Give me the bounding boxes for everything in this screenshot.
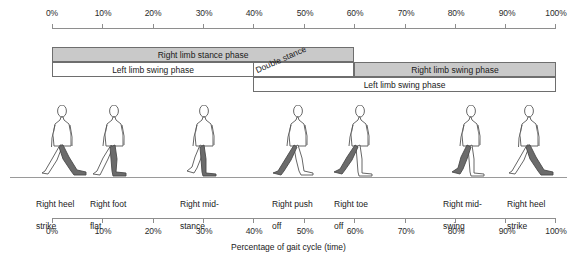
top-axis-tick-20 xyxy=(153,24,154,29)
event-label-line-1: Right heel xyxy=(507,199,545,210)
bar-double-stance: Double stance xyxy=(253,62,354,77)
bottom-axis-tick-50 xyxy=(304,218,305,223)
bottom-axis-tick-30 xyxy=(203,218,204,223)
bottom-axis-tick-90 xyxy=(505,218,506,223)
top-tick-label-60: 60% xyxy=(338,8,372,18)
top-axis-tick-10 xyxy=(102,24,103,29)
walker-figure-right-mid-swing xyxy=(443,105,495,178)
bottom-tick-label-40: 40% xyxy=(237,226,271,236)
walker-figure-right-mid-stance xyxy=(178,105,230,178)
bottom-tick-label-90: 90% xyxy=(490,226,524,236)
top-axis-tick-70 xyxy=(405,24,406,29)
top-axis-tick-100 xyxy=(555,24,556,29)
x-axis-title: Percentage of gait cycle (time) xyxy=(0,242,577,252)
gait-cycle-figure: 0% 10% 20% 30% 40% 50% 60% 70% 80% 90% 1… xyxy=(0,0,577,262)
bottom-tick-label-50: 50% xyxy=(288,226,322,236)
top-tick-label-30: 30% xyxy=(187,8,221,18)
bottom-axis-tick-0 xyxy=(52,218,53,223)
walker-figure-right-push-off xyxy=(268,105,320,178)
top-tick-label-50: 50% xyxy=(288,8,322,18)
top-tick-label-0: 0% xyxy=(35,8,69,18)
bottom-tick-label-20: 20% xyxy=(136,226,170,236)
top-axis-tick-60 xyxy=(354,24,355,29)
bottom-tick-label-80: 80% xyxy=(439,226,473,236)
top-axis-tick-0 xyxy=(52,24,53,29)
top-axis-tick-50 xyxy=(304,24,305,29)
top-axis-tick-40 xyxy=(253,24,254,29)
walker-figure-right-toe-off xyxy=(328,105,380,178)
top-axis-tick-80 xyxy=(455,24,456,29)
bar-left-limb-swing-phase-upper: Left limb swing phase xyxy=(52,62,254,77)
top-axis-tick-30 xyxy=(203,24,204,29)
bottom-axis-tick-10 xyxy=(102,218,103,223)
bottom-tick-label-100: 100% xyxy=(539,226,573,236)
event-label-line-1: Right mid- xyxy=(443,199,482,210)
top-axis-tick-90 xyxy=(505,24,506,29)
bottom-axis-tick-60 xyxy=(354,218,355,223)
event-label-line-1: Right mid- xyxy=(180,199,219,210)
top-tick-label-10: 10% xyxy=(86,8,120,18)
top-tick-label-100: 100% xyxy=(539,8,573,18)
bottom-tick-label-70: 70% xyxy=(389,226,423,236)
ground-line xyxy=(10,177,567,178)
bottom-axis-tick-100 xyxy=(555,218,556,223)
event-label-line-1: Right toe xyxy=(334,199,368,210)
top-tick-label-80: 80% xyxy=(439,8,473,18)
top-tick-label-70: 70% xyxy=(389,8,423,18)
bottom-axis-tick-70 xyxy=(405,218,406,223)
top-tick-label-90: 90% xyxy=(490,8,524,18)
bottom-tick-label-10: 10% xyxy=(86,226,120,236)
event-label-line-1: Right foot xyxy=(90,199,126,210)
walker-figure-right-heel-strike-end xyxy=(505,105,557,178)
walker-figure-right-heel-strike xyxy=(38,105,90,178)
top-tick-label-40: 40% xyxy=(237,8,271,18)
bar-right-limb-stance-phase: Right limb stance phase xyxy=(52,47,354,62)
top-tick-label-20: 20% xyxy=(136,8,170,18)
bottom-tick-label-30: 30% xyxy=(187,226,221,236)
bottom-tick-label-0: 0% xyxy=(35,226,69,236)
bottom-axis-tick-40 xyxy=(253,218,254,223)
bottom-axis-tick-20 xyxy=(153,218,154,223)
bottom-tick-label-60: 60% xyxy=(338,226,372,236)
walker-figure-right-foot-flat xyxy=(88,105,140,178)
bar-left-limb-swing-phase-lower: Left limb swing phase xyxy=(253,77,556,92)
event-label-line-1: Right heel xyxy=(36,199,74,210)
bottom-axis-tick-80 xyxy=(455,218,456,223)
bar-right-limb-swing-phase: Right limb swing phase xyxy=(354,62,556,77)
event-label-line-1: Right push xyxy=(272,199,313,210)
